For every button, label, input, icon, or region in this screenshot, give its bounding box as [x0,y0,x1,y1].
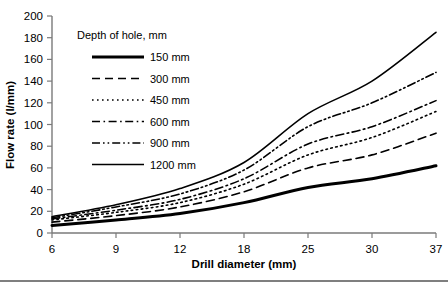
legend-entries: 150 mm300 mm450 mm600 mm900 mm1200 mm [92,51,196,171]
x-tick-label: 37 [430,243,443,255]
x-axis-tick-labels: 691218253037 [49,243,443,255]
legend-label-600-mm: 600 mm [150,116,190,128]
y-tick-label: 20 [30,205,43,217]
series-line-900-mm [52,72,436,217]
chart-figure: 020406080100120140160180200 691218253037… [0,0,448,282]
x-tick-label: 25 [302,243,315,255]
legend-label-450-mm: 450 mm [150,94,190,106]
x-axis-ticks [52,233,436,238]
x-tick-label: 12 [174,243,187,255]
chart-series-group [52,32,436,225]
x-axis-title: Drill diameter (mm) [192,258,297,270]
legend-title: Depth of hole, mm [77,29,167,41]
legend-label-300-mm: 300 mm [150,73,190,85]
legend-label-1200-mm: 1200 mm [150,159,196,171]
chart-legend: Depth of hole, mm 150 mm300 mm450 mm600 … [77,29,196,171]
y-tick-label: 180 [24,32,43,44]
y-tick-label: 120 [24,97,43,109]
y-tick-label: 200 [24,10,43,22]
y-axis-tick-labels: 020406080100120140160180200 [24,10,43,239]
y-axis-ticks [47,16,52,233]
y-axis-title: Flow rate (l/mm) [4,81,16,169]
y-tick-label: 0 [37,227,43,239]
x-tick-label: 9 [113,243,119,255]
y-tick-label: 140 [24,75,43,87]
legend-label-150-mm: 150 mm [150,51,190,63]
x-tick-label: 30 [366,243,379,255]
legend-label-900-mm: 900 mm [150,137,190,149]
y-tick-label: 80 [30,140,43,152]
y-tick-label: 160 [24,53,43,65]
x-tick-label: 18 [238,243,251,255]
y-tick-label: 60 [30,162,43,174]
y-tick-label: 40 [30,184,43,196]
x-tick-label: 6 [49,243,55,255]
y-tick-label: 100 [24,119,43,131]
chart-svg: 020406080100120140160180200 691218253037… [0,0,448,282]
